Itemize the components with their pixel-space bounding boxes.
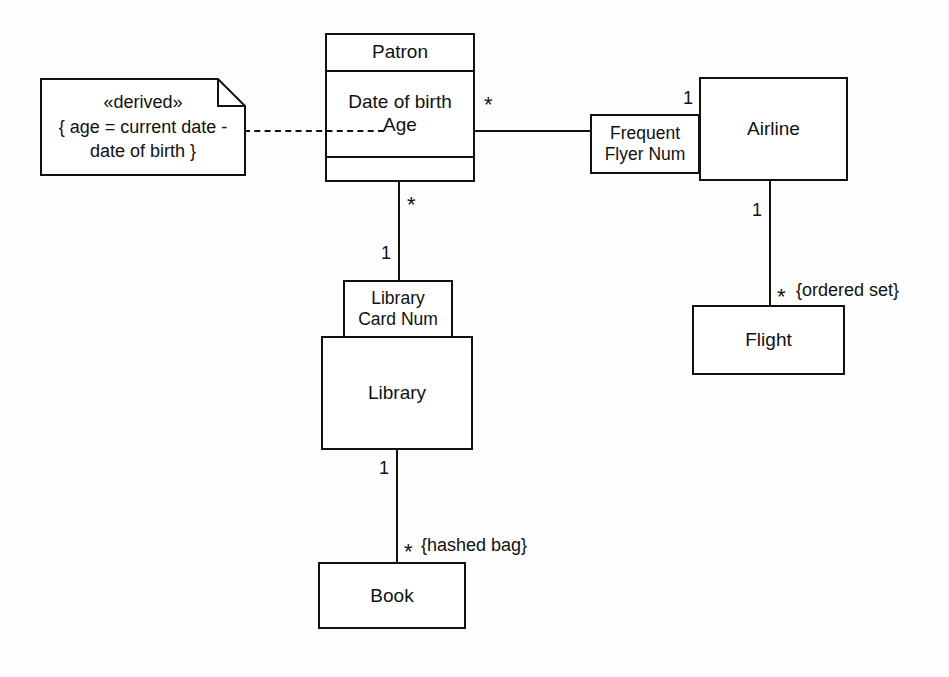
uml-class-diagram-canvas: «derived» { age = current date - date of… <box>0 0 949 677</box>
multiplicity-book-to-library: * <box>404 547 413 557</box>
note-shape-icon <box>40 78 246 176</box>
airline-class-name: Airline <box>747 118 800 140</box>
book-class-name: Book <box>370 585 413 607</box>
association-line-airline-flight <box>769 180 771 306</box>
multiplicity-library-to-book: 1 <box>379 458 389 479</box>
library-class-name: Library <box>368 382 426 404</box>
class-box-library: Library <box>321 336 473 450</box>
constraint-flight-ordered-set: {ordered set} <box>796 280 899 301</box>
qualifier-frequent-flyer-num: Frequent Flyer Num <box>590 114 700 174</box>
association-line-patron-airline <box>474 130 592 132</box>
multiplicity-library-to-patron: 1 <box>381 243 391 264</box>
class-box-flight: Flight <box>692 305 845 375</box>
multiplicity-flight-to-airline: * <box>777 292 786 302</box>
derived-note: «derived» { age = current date - date of… <box>40 78 246 176</box>
patron-operations <box>325 156 475 182</box>
association-line-library-book <box>396 449 398 563</box>
note-anchor-dashed-line <box>244 130 384 132</box>
multiplicity-airline-to-patron: 1 <box>683 88 693 109</box>
multiplicity-patron-to-airline: * <box>484 100 493 110</box>
class-box-airline: Airline <box>699 77 848 181</box>
constraint-book-hashed-bag: {hashed bag} <box>421 535 527 556</box>
patron-class-name: Patron <box>325 33 475 70</box>
patron-attributes: Date of birth Age <box>325 70 475 156</box>
qualifier-library-card-num: Library Card Num <box>343 280 453 338</box>
flight-class-name: Flight <box>745 329 791 351</box>
multiplicity-airline-to-flight: 1 <box>752 200 762 221</box>
association-line-patron-library <box>398 181 400 281</box>
class-box-book: Book <box>318 562 466 629</box>
multiplicity-patron-to-library: * <box>407 200 416 210</box>
